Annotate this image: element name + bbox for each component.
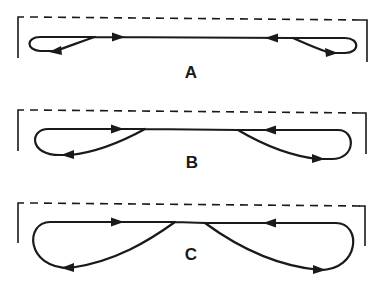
flow-path — [30, 37, 357, 53]
panel-label: A — [185, 63, 197, 82]
flow-loop-diagram: A B C — [0, 0, 383, 282]
left-bracket — [18, 110, 24, 151]
dashed-boundary — [30, 203, 361, 206]
arrow-right-icon — [325, 48, 338, 57]
right-bracket — [359, 206, 365, 246]
panel-a: A — [18, 17, 367, 82]
panel-label: C — [185, 245, 197, 264]
right-bracket — [360, 20, 367, 62]
arrow-right-icon — [112, 33, 125, 42]
left-bracket — [18, 203, 24, 243]
arrow-left-icon — [61, 263, 74, 272]
panel-b: B — [18, 110, 366, 172]
arrow-right-icon — [111, 125, 124, 134]
arrow-right-icon — [111, 218, 124, 227]
arrow-right-icon — [313, 265, 326, 274]
arrow-left-icon — [263, 126, 276, 135]
dashed-boundary — [30, 17, 362, 20]
dashed-boundary — [30, 110, 362, 113]
arrow-left-icon — [263, 219, 276, 228]
right-bracket — [360, 113, 366, 154]
panel-label: B — [186, 153, 198, 172]
left-bracket — [18, 17, 24, 58]
arrow-right-icon — [312, 154, 325, 163]
arrow-left-icon — [265, 34, 278, 43]
arrow-left-icon — [61, 150, 74, 159]
panel-c: C — [18, 203, 365, 274]
